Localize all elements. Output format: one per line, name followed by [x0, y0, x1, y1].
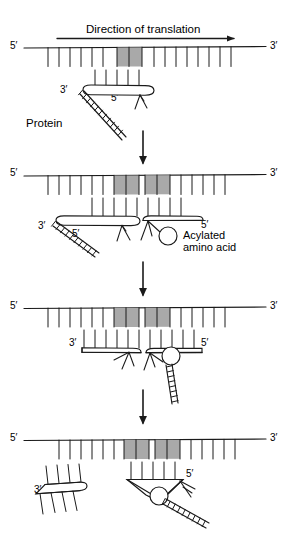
panel3-amino-acid-circle: [162, 347, 180, 365]
panel4-amino-acid-circle: [150, 487, 168, 505]
panel-4: [24, 439, 266, 528]
translation-diagram: [0, 0, 291, 555]
panel1-protein-chain: [79, 90, 127, 140]
panel2-trna-ticks: [92, 198, 181, 216]
panel4-protein-chain: [162, 499, 209, 529]
panel2-trna-left-stem: [117, 225, 130, 241]
panel4-trna-ticks: [131, 462, 175, 480]
panel3-trna-right-stem: [144, 353, 163, 370]
panel2-trna-right-stem: [141, 221, 160, 240]
panel1-mrna-backbone: [24, 47, 266, 49]
panel2-protein-chain: [52, 221, 100, 257]
panel4-trna-peptidyl-stem: [180, 481, 195, 497]
panel-3: [24, 307, 266, 404]
panel2-amino-acid-circle: [159, 227, 177, 245]
panel3-trna-ticks: [84, 330, 194, 348]
panel-1: [24, 47, 266, 141]
panel-2: [24, 175, 266, 258]
panel1-trna-body: [83, 85, 154, 95]
panel1-trna-stem: [135, 95, 147, 109]
panel2-trna-left-body: [56, 216, 140, 226]
panel3-protein-chain: [166, 364, 178, 404]
panel4-trna-released: [36, 464, 87, 514]
panel3-trna-left-stem: [114, 352, 134, 369]
